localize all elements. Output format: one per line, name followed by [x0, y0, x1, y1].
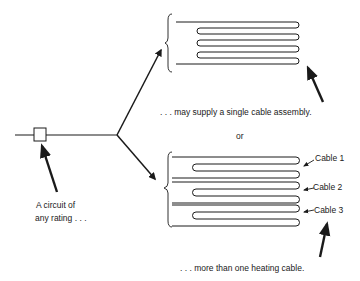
circuit-label-line2: any rating . . . [35, 212, 87, 225]
cable-1 [172, 157, 300, 178]
cable-2 [172, 182, 300, 203]
branch-arrow-upper [117, 50, 161, 135]
pointer-arrow-multi [320, 224, 327, 257]
cable-3 [172, 205, 300, 226]
multi-cable-caption: . . . more than one heating cable. [180, 262, 304, 275]
circuit-label-line1: A circuit of [36, 199, 75, 212]
single-cable-caption: . . . may supply a single cable assembly… [160, 106, 312, 119]
single-cable-assembly [165, 14, 299, 72]
cable-2-label: Cable 2 [313, 181, 342, 194]
pointer-arrow-circuit [42, 146, 57, 192]
cable-3-label: Cable 3 [314, 204, 343, 217]
branch-arrow-lower [117, 135, 155, 179]
multi-cable-assembly [164, 152, 314, 227]
pointer-arrow-single [308, 68, 323, 102]
cable-1-label: Cable 1 [315, 152, 344, 165]
circuit-diagram [0, 0, 360, 281]
circuit-breaker-icon [34, 128, 46, 141]
or-label: or [236, 130, 244, 143]
